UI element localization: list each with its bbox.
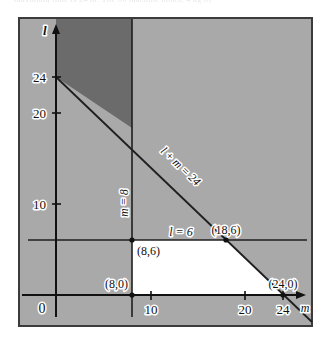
y-axis-label: l (43, 23, 47, 38)
y-tick-label-24: 24 (33, 70, 47, 85)
truncated-body-text-content: maximum time is 24 hr. The 60 machine ho… (14, 0, 333, 6)
vertex-dot-24-0 (280, 292, 285, 297)
vertex-label-24-0: (24,0) (269, 277, 298, 291)
figure-container: l m 0 24 20 10 10 20 24 l + m = 24 m = 8… (18, 17, 313, 327)
y-tick-label-20: 20 (33, 106, 46, 121)
vertex-dot-8-0 (129, 292, 134, 297)
origin-tick-label: 0 (39, 301, 46, 316)
constraint-label-m8: m = 8 (118, 189, 130, 217)
linear-programming-graph: l m 0 24 20 10 10 20 24 l + m = 24 m = 8… (18, 17, 313, 327)
vertex-label-8-0: (8,0) (105, 277, 128, 291)
x-tick-label-10: 10 (145, 302, 158, 317)
y-tick-label-10: 10 (33, 197, 46, 212)
vertex-dot-8-6 (129, 237, 134, 242)
vertex-label-8-6: (8,6) (137, 244, 160, 258)
x-axis-label: m (301, 301, 310, 315)
x-tick-label-20: 20 (239, 302, 252, 317)
truncated-body-text: maximum time is 24 hr. The 60 machine ho… (0, 0, 333, 13)
constraint-label-l6: l = 6 (169, 225, 192, 239)
x-tick-label-24: 24 (277, 302, 291, 317)
vertex-label-18-6: (18,6) (212, 223, 241, 237)
vertex-dot-18-6 (223, 237, 228, 242)
